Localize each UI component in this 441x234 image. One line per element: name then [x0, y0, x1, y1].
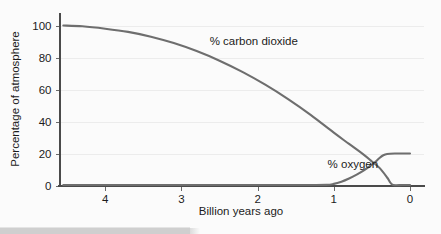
- x-tick-label: 4: [102, 193, 109, 205]
- x-tick-label: 2: [254, 193, 260, 205]
- y-tick-label: 60: [39, 84, 52, 96]
- y-tick-label: 100: [32, 20, 51, 32]
- x-axis-title: Billion years ago: [199, 205, 283, 217]
- y-tick-labels-group: 020406080100: [32, 20, 51, 192]
- y-tick-label: 0: [45, 180, 51, 192]
- x-tick-label: 0: [407, 193, 413, 205]
- y-tick-label: 80: [39, 52, 52, 64]
- x-tick-label: 3: [178, 193, 184, 205]
- y-tick-label: 40: [39, 116, 52, 128]
- bottom-banner-strip: [0, 227, 190, 234]
- y-axis-title: Percentage of atmosphere: [9, 31, 21, 167]
- x-tick-label: 1: [331, 193, 337, 205]
- y-tick-label: 20: [39, 148, 52, 160]
- x-tick-labels-group: 43210: [102, 193, 413, 205]
- chart-figure: 020406080100 43210 % carbon dioxide % ox…: [0, 0, 441, 234]
- bottom-banner-fade: [186, 228, 200, 234]
- carbon-dioxide-series-label: % carbon dioxide: [210, 35, 298, 47]
- chart-plot-area: 020406080100 43210 % carbon dioxide % ox…: [0, 0, 441, 234]
- oxygen-series-label: % oxygen: [328, 158, 379, 170]
